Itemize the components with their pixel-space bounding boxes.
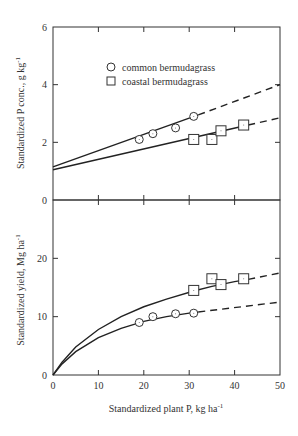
legend-circle-marker-icon	[107, 63, 115, 71]
bottom-y-axis-label: Standardized yield, Mg ha-1	[14, 234, 26, 346]
y-tick-label: 20	[37, 253, 47, 264]
x-tick-label: 20	[139, 380, 149, 391]
top-panel-series	[53, 85, 280, 170]
x-tick-label: 10	[93, 380, 103, 391]
fit-line-dashed	[248, 118, 280, 125]
top-y-axis-label: Standardized P conc., g kg-1	[14, 56, 26, 169]
x-tick-label: 30	[184, 380, 194, 391]
legend: common bermudagrass coastal bermudagrass	[107, 62, 215, 87]
y-tick-label: 4	[42, 79, 47, 90]
legend-label-common: common bermudagrass	[122, 62, 215, 73]
y-tick-label: 2	[42, 137, 47, 148]
bottom-panel-ticks: 0102030405001020	[37, 200, 285, 391]
x-axis-label: Standardized plant P, kg ha-1	[109, 402, 224, 414]
x-tick-label: 50	[275, 380, 285, 391]
bottom-panel-frame	[53, 200, 280, 375]
fit-line-solid	[53, 312, 198, 375]
bottom-panel-series	[53, 273, 280, 375]
fit-line-dashed	[198, 302, 280, 312]
chart-canvas: 0246 0102030405001020 common bermudagras…	[0, 0, 298, 436]
fit-line-solid	[53, 279, 248, 375]
top-panel-frame	[53, 27, 280, 200]
x-tick-label: 40	[230, 380, 240, 391]
top-panel-ticks: 0246	[42, 22, 280, 206]
fit-line-dashed	[198, 85, 280, 115]
fit-line-dashed	[248, 273, 280, 279]
y-tick-label: 6	[42, 22, 47, 33]
legend-square-marker-icon	[107, 77, 115, 85]
x-tick-label: 0	[51, 380, 56, 391]
y-tick-label: 0	[42, 195, 47, 206]
legend-label-coastal: coastal bermudagrass	[122, 76, 208, 87]
y-tick-label: 10	[37, 311, 47, 322]
y-tick-label: 0	[42, 370, 47, 381]
